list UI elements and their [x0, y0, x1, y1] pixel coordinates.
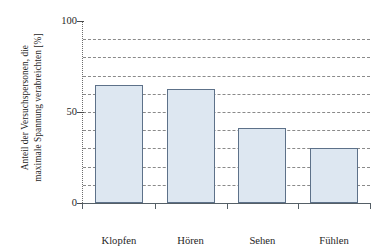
x-tick-label-sehen: Sehen — [227, 235, 299, 247]
x-tick-mark-3 — [298, 203, 299, 209]
bar-fuehlen[interactable] — [310, 148, 358, 203]
x-tick-mark-1 — [155, 203, 156, 209]
bar-hoeren[interactable] — [167, 89, 215, 203]
y-axis-tick-labels: 100 50 0 — [41, 21, 77, 203]
gridline-90 — [83, 39, 370, 40]
x-tick-label-klopfen: Klopfen — [83, 235, 155, 247]
y-tick-label-0: 0 — [43, 198, 77, 209]
x-tick-label-hoeren: Hören — [155, 235, 227, 247]
y-tick-label-100: 100 — [43, 16, 77, 27]
x-tick-mark-0 — [82, 203, 83, 209]
x-tick-label-fuehlen: Fühlen — [298, 235, 370, 247]
x-tick-mark-4 — [370, 203, 371, 209]
y-axis-title-line-1: Anteil der Versuchspersonen, die — [18, 33, 31, 181]
bar-klopfen[interactable] — [95, 85, 143, 203]
gridline-70 — [83, 76, 370, 77]
y-tick-mark-100 — [77, 21, 84, 22]
plot-area: Klopfen Hören Sehen Fühlen — [83, 21, 370, 203]
x-tick-mark-2 — [227, 203, 228, 209]
gridline-80 — [83, 57, 370, 58]
y-tick-mark-50 — [77, 112, 84, 113]
bar-sehen[interactable] — [238, 128, 286, 203]
y-tick-label-50: 50 — [43, 107, 77, 118]
